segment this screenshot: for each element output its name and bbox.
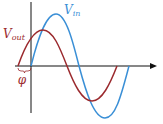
vin-label: Vin (64, 3, 80, 18)
vout-label: Vout (3, 27, 26, 42)
x-axis-arrow-icon (150, 63, 157, 69)
phase-label: φ (18, 73, 27, 87)
phase-diagram: φ Vout Vin (0, 0, 163, 124)
